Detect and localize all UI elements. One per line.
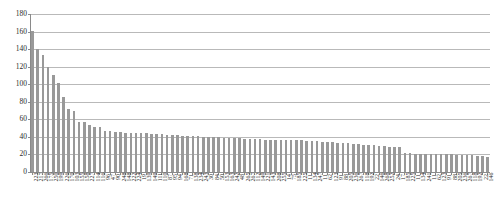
x-tick-label: 146	[488, 173, 494, 182]
bar	[264, 140, 267, 172]
bar	[249, 139, 252, 172]
bar	[243, 139, 246, 172]
bar	[109, 131, 112, 172]
bar	[192, 136, 195, 172]
bar	[461, 155, 464, 172]
bar	[269, 140, 272, 172]
bar	[202, 137, 205, 172]
bar	[311, 141, 314, 172]
bar	[145, 133, 148, 172]
bar	[42, 55, 45, 172]
bar	[362, 145, 365, 172]
bar-series	[30, 14, 490, 172]
bar	[471, 155, 474, 172]
bar	[274, 140, 277, 172]
bar	[486, 157, 489, 172]
bar	[186, 136, 189, 172]
bar	[57, 83, 60, 172]
y-tick-label-100: 100	[1, 80, 27, 88]
bar	[228, 138, 231, 172]
y-tick-label-0: 0	[1, 168, 27, 176]
bar	[388, 147, 391, 172]
x-label-slot: 146	[485, 176, 490, 207]
plot-area	[30, 14, 490, 172]
bar	[440, 154, 443, 172]
bar	[155, 134, 158, 172]
x-axis-labels: 2232172661752501992261701031551582271141…	[30, 176, 490, 207]
bar	[217, 137, 220, 172]
bar	[424, 154, 427, 172]
bar	[300, 140, 303, 172]
bar	[367, 145, 370, 172]
bar	[409, 153, 412, 172]
bar	[140, 133, 143, 172]
bar	[430, 154, 433, 172]
bar	[455, 155, 458, 172]
bar	[99, 127, 102, 172]
bar	[331, 142, 334, 172]
bar	[233, 138, 236, 172]
bar	[83, 122, 86, 172]
bar	[124, 133, 127, 173]
bar	[476, 156, 479, 172]
bar	[316, 141, 319, 172]
bar	[336, 143, 339, 172]
bar	[47, 67, 50, 172]
bar	[295, 140, 298, 172]
bar	[197, 136, 200, 172]
bar	[119, 132, 122, 172]
bar	[347, 143, 350, 172]
bar	[285, 140, 288, 172]
bar	[398, 147, 401, 172]
bar	[290, 140, 293, 172]
bar	[466, 155, 469, 172]
bar	[62, 97, 65, 172]
bar	[481, 156, 484, 172]
bar-slot	[485, 14, 490, 172]
y-tick-label-140: 140	[1, 45, 27, 53]
bar	[326, 142, 329, 172]
bar	[254, 139, 257, 172]
bar	[88, 125, 91, 172]
bar	[393, 147, 396, 172]
bar	[280, 140, 283, 172]
y-tick-label-20: 20	[1, 150, 27, 158]
bar	[166, 135, 169, 172]
y-tick-label-120: 120	[1, 63, 27, 71]
bar	[357, 144, 360, 172]
bar	[450, 154, 453, 172]
bar	[305, 141, 308, 172]
bar	[414, 154, 417, 172]
bar	[373, 145, 376, 172]
bar	[321, 142, 324, 172]
bar	[383, 146, 386, 172]
bar	[171, 135, 174, 172]
y-tick-label-60: 60	[1, 115, 27, 123]
bar	[176, 135, 179, 172]
bar	[342, 143, 345, 172]
y-tick-label-80: 80	[1, 98, 27, 106]
bar	[212, 137, 215, 172]
y-axis: 180160140120100806040200	[0, 0, 27, 207]
bar	[419, 154, 422, 172]
bar	[78, 122, 81, 172]
bar	[404, 153, 407, 172]
y-tick-label-180: 180	[1, 10, 27, 18]
bar	[52, 75, 55, 172]
bar	[114, 132, 117, 172]
bar	[181, 136, 184, 172]
bar	[104, 131, 107, 172]
bar	[73, 111, 76, 172]
bar	[135, 133, 138, 172]
bar	[150, 134, 153, 172]
bar	[435, 154, 438, 172]
bar	[223, 138, 226, 172]
y-tick-label-40: 40	[1, 133, 27, 141]
y-axis-line	[30, 14, 31, 172]
bar	[36, 49, 39, 172]
bar	[259, 139, 262, 172]
bar	[207, 137, 210, 172]
bar	[238, 138, 241, 172]
bar-chart: 180160140120100806040200 223217266175250…	[0, 0, 502, 207]
bar	[67, 109, 70, 172]
